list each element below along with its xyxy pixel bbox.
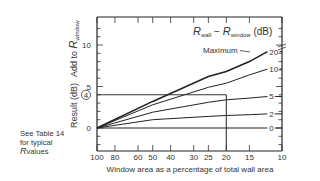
- curve-label: 0: [269, 124, 274, 133]
- side-note: See Table 14 for typical Rvalues: [20, 129, 64, 156]
- legend-title: Rwall − Rwindow (dB): [193, 25, 272, 38]
- maximum-annotation: Maximum: [203, 46, 238, 55]
- y-tick-label: 0: [87, 124, 92, 133]
- side-note-line3: Rvalues: [20, 147, 64, 156]
- labels: 100806050403025201510051042010520: [81, 41, 287, 162]
- x-tick-label: 30: [189, 153, 198, 162]
- x-tick-label: 10: [278, 153, 287, 162]
- x-tick-label: 40: [166, 153, 175, 162]
- x-tick-label: 80: [110, 153, 119, 162]
- side-note-line1: See Table 14: [20, 129, 64, 138]
- y-axis-label: Result (dB)Add to Rwindow: [67, 20, 80, 128]
- curve-5: [97, 97, 267, 129]
- curves: [97, 52, 282, 128]
- highlight-tick-label: 4: [84, 91, 89, 100]
- plot-frame: [97, 17, 282, 151]
- x-tick-label: 15: [245, 153, 254, 162]
- x-tick-label: 100: [90, 153, 104, 162]
- curve-label: 10: [269, 65, 278, 74]
- maximum-pointer: [240, 51, 250, 53]
- x-tick-label: 25: [204, 153, 213, 162]
- x-axis-label: Window area as a percentage of total wal…: [107, 165, 274, 174]
- curve-label: 2: [269, 110, 274, 119]
- x-tick-label: 50: [148, 153, 157, 162]
- y-tick-label: 10: [82, 41, 91, 50]
- axis-ticks: [97, 17, 282, 151]
- x-tick-label: 60: [134, 153, 143, 162]
- x-tick-label: 20: [222, 153, 231, 162]
- curve-label: 5: [269, 92, 274, 101]
- curve-20: [97, 52, 267, 128]
- curve-label: 20: [269, 48, 278, 57]
